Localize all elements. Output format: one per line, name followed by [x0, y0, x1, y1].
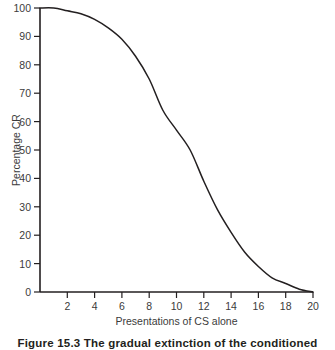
x-axis-tick-labels: 2 4 6 8 10 12 14 16 18 20	[64, 300, 319, 312]
extinction-curve-line	[40, 8, 313, 292]
x-axis-ticks	[67, 292, 313, 298]
x-tick-label: 18	[280, 300, 292, 312]
x-tick-label: 8	[146, 300, 152, 312]
y-tick-label: 0	[25, 286, 31, 298]
y-tick-label: 30	[19, 201, 31, 213]
y-tick-label: 20	[19, 229, 31, 241]
x-tick-label: 20	[307, 300, 319, 312]
y-axis-title: Percentage CR	[10, 114, 22, 186]
x-tick-label: 2	[64, 300, 70, 312]
x-tick-label: 14	[225, 300, 237, 312]
y-axis-ticks	[34, 8, 40, 292]
x-tick-label: 6	[119, 300, 125, 312]
figure-caption: Figure 15.3 The gradual extinction of th…	[0, 337, 335, 350]
y-tick-label: 10	[19, 258, 31, 270]
x-tick-label: 16	[253, 300, 265, 312]
y-tick-label: 70	[19, 87, 31, 99]
y-tick-label: 90	[19, 30, 31, 42]
y-tick-label: 80	[19, 59, 31, 71]
x-tick-label: 10	[171, 300, 183, 312]
x-axis-title: Presentations of CS alone	[116, 315, 238, 327]
y-tick-label: 100	[13, 2, 31, 14]
x-tick-label: 12	[198, 300, 210, 312]
x-tick-label: 4	[92, 300, 98, 312]
